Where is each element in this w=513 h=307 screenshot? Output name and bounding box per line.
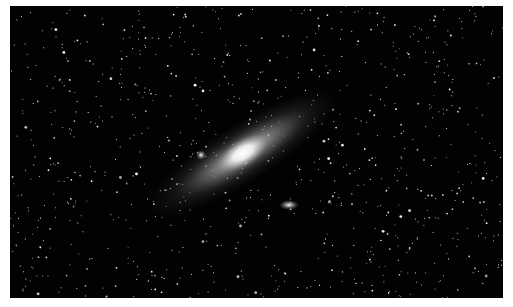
galaxy-image <box>10 6 503 298</box>
satellite-galaxy-m32 <box>196 150 206 160</box>
andromeda-galaxy <box>132 68 354 238</box>
satellite-galaxy-m110 <box>279 200 299 210</box>
starfield-photo <box>10 6 503 298</box>
